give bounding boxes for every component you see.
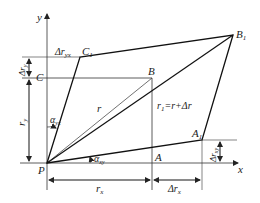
label-C1: C1 [82, 45, 93, 59]
svg-text:y: y [36, 11, 42, 23]
label-alpha-yx: αyx [50, 114, 61, 126]
label-dry: Δry [17, 64, 28, 77]
label-A1: A1 [191, 127, 202, 141]
alpha-yx-arc [47, 127, 56, 128]
vector-r1 [47, 35, 233, 163]
label-r: r [97, 102, 102, 114]
svg-text:x: x [237, 163, 243, 175]
label-C: C [36, 71, 44, 83]
label-rx: rx [96, 182, 104, 196]
label-B1: B1 [236, 28, 246, 42]
label-r1: r1=r+Δr [157, 100, 192, 113]
label-drxy: Δrxy [208, 148, 219, 163]
label-B: B [148, 65, 155, 77]
label-P: P [37, 164, 45, 176]
deformation-diagram: y x P A B C A1 B1 C1 Δryx r r1=r+Δr rx Δ… [0, 0, 260, 203]
label-A: A [154, 151, 162, 163]
label-ry: ry [15, 118, 29, 126]
label-drx: Δrx [167, 183, 182, 196]
alpha-xy-arc [90, 157, 91, 163]
